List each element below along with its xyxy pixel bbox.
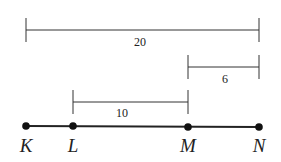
point-k — [22, 122, 30, 130]
measure-kn: 20 — [26, 18, 259, 49]
point-m — [184, 123, 192, 131]
measure-lm-label: 10 — [116, 106, 128, 120]
label-n: N — [252, 135, 267, 156]
point-n — [255, 123, 263, 131]
label-k: K — [19, 135, 34, 156]
segment-diagram: 20 6 10 K L M N — [0, 0, 281, 162]
point-l — [69, 122, 77, 130]
measure-mn-label: 6 — [222, 72, 228, 86]
label-m: M — [179, 135, 197, 156]
measure-mn: 6 — [188, 55, 259, 86]
measure-lm: 10 — [73, 90, 188, 120]
measure-kn-label: 20 — [134, 35, 146, 49]
label-l: L — [67, 135, 79, 156]
line-kn — [26, 126, 259, 127]
